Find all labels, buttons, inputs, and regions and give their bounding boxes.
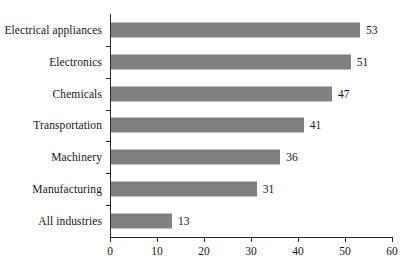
x-axis-tick-label: 30 [245,245,257,257]
bar [111,214,172,229]
x-axis-tick [157,237,158,242]
category-label: Manufacturing [32,183,102,195]
bar [111,86,332,101]
bar [111,182,257,197]
bar-row: Manufacturing31 [110,173,392,205]
bar-chart: Electrical appliances53Electronics51Chem… [0,0,412,277]
bar-value-label: 53 [366,24,378,36]
x-axis-tick-label: 40 [292,245,304,257]
bar [111,118,304,133]
y-axis-tick [106,110,111,111]
x-axis-tick [204,237,205,242]
bar-row: Transportation41 [110,110,392,142]
bar [111,22,360,37]
x-axis-tick-label: 10 [151,245,163,257]
category-label: Chemicals [53,88,102,100]
y-axis-tick [106,141,111,142]
x-axis-tick-label: 50 [339,245,351,257]
category-label: Machinery [51,151,102,163]
x-axis-tick [392,237,393,242]
bar [111,150,280,165]
x-axis-tick [298,237,299,242]
category-label: Electronics [49,56,102,68]
bar-value-label: 36 [286,151,298,163]
x-axis-tick [110,237,111,242]
category-label: All industries [38,215,102,227]
x-axis-tick-label: 0 [107,245,113,257]
bar-row: Electronics51 [110,46,392,78]
x-axis-tick [251,237,252,242]
y-axis-tick [106,173,111,174]
plot-area: Electrical appliances53Electronics51Chem… [110,14,392,237]
bar-value-label: 51 [357,56,369,68]
bar-value-label: 13 [178,215,190,227]
bar [111,54,351,69]
bar-value-label: 31 [263,183,275,195]
category-label: Electrical appliances [4,24,102,36]
bar-row: Machinery36 [110,141,392,173]
x-axis-tick [345,237,346,242]
y-axis-tick [106,78,111,79]
bar-value-label: 41 [310,119,322,131]
y-axis-tick [106,205,111,206]
bar-row: Chemicals47 [110,78,392,110]
bar-row: Electrical appliances53 [110,14,392,46]
category-label: Transportation [33,119,102,131]
x-axis-tick-label: 60 [386,245,398,257]
x-axis-tick-label: 20 [198,245,210,257]
bar-row: All industries13 [110,205,392,237]
y-axis-tick [106,46,111,47]
bar-value-label: 47 [338,88,350,100]
